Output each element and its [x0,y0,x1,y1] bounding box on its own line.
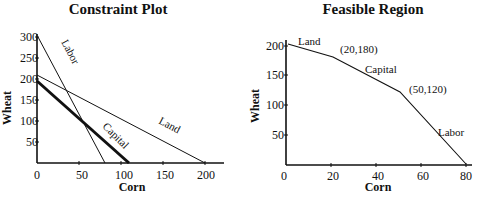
y-tick-label: 150 [266,68,284,82]
x-tick-label: 80 [460,169,472,183]
y-tick-label: 100 [266,98,284,112]
x-tick-label: 0 [281,169,287,183]
point-label-20-180: (20,180) [340,43,378,56]
x-tick-label: 20 [327,169,339,183]
x-axis-label: Corn [365,180,392,194]
land-label: Land [298,35,321,47]
capital-label: Capital [365,63,397,75]
labor-label: Labor [438,126,465,138]
point-label-50-120: (50,120) [409,83,447,96]
x-tick-label: 60 [417,169,429,183]
feasible-region-plot: 50 100 150 200 0 20 40 60 80 Corn Wheat … [0,0,478,217]
y-tick-label: 200 [266,39,284,53]
feasible-frontier-line [288,44,466,164]
y-tick-label: 50 [272,128,284,142]
y-axis-label: Wheat [248,89,262,123]
